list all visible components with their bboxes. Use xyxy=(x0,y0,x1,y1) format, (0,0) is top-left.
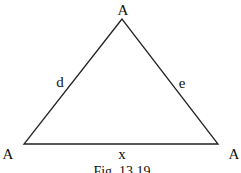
triangle xyxy=(24,19,218,144)
vertex-bottom-left-label: A xyxy=(3,147,14,162)
side-left-label: d xyxy=(56,75,64,90)
vertex-bottom-right-label: A xyxy=(229,147,240,162)
figure-caption: Fig. 13.19 xyxy=(93,165,150,173)
vertex-top-label: A xyxy=(118,3,129,18)
side-right-label: e xyxy=(179,76,186,91)
side-bottom-label: x xyxy=(118,147,126,162)
